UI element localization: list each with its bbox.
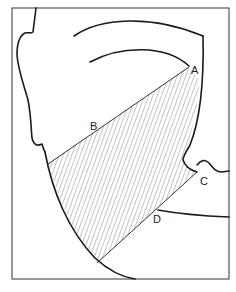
diagram-figure: A B C D: [0, 0, 236, 292]
label-C: C: [200, 175, 208, 187]
brow-arc-lower: [90, 50, 189, 66]
label-B: B: [90, 120, 97, 132]
shaded-region: [40, 60, 210, 270]
brow-arc-upper: [74, 21, 203, 36]
head-profile-outline: [17, 8, 45, 152]
label-A: A: [191, 64, 199, 76]
label-D: D: [153, 213, 161, 225]
nose-lip-outline: [197, 161, 229, 172]
line-D-border: [158, 210, 229, 217]
